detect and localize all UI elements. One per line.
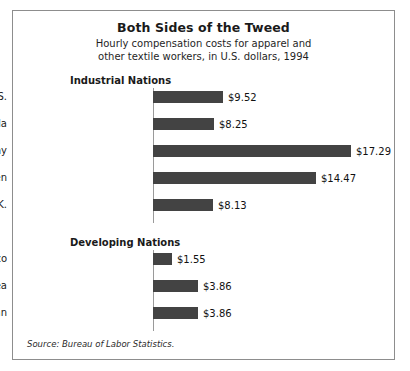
bar-row: Sweden $14.47: [13, 169, 394, 196]
bar: [153, 307, 198, 319]
bar-group: $9.52: [153, 91, 257, 103]
plot-industrial: U.S. $9.52 Canada $8.25 Germany $17.29 S…: [13, 88, 394, 223]
bar-row: Taiwan $3.86: [13, 304, 394, 331]
bar-group: $1.55: [153, 253, 206, 265]
category-label: Canada: [0, 118, 13, 129]
bar-row: U.K. $8.13: [13, 196, 394, 223]
category-label: Mexico: [0, 253, 13, 264]
bar: [153, 199, 213, 211]
bar: [153, 172, 316, 184]
chart-subtitle: Hourly compensation costs for apparel an…: [13, 38, 394, 63]
bar-row: U.S. $9.52: [13, 88, 394, 115]
bar-row: Korea $3.86: [13, 277, 394, 304]
section-heading-developing: Developing Nations: [70, 237, 394, 248]
category-label: U.S.: [0, 91, 13, 102]
bar-row: Germany $17.29: [13, 142, 394, 169]
bar: [153, 91, 223, 103]
value-label: $14.47: [321, 173, 356, 184]
value-label: $3.86: [203, 308, 232, 319]
chart-title: Both Sides of the Tweed: [13, 20, 394, 35]
bar-group: $8.25: [153, 118, 248, 130]
category-label: Germany: [0, 145, 13, 156]
chart-subtitle-line-2: other textile workers, in U.S. dollars, …: [13, 51, 394, 64]
bar-group: $3.86: [153, 280, 232, 292]
category-label: Sweden: [0, 172, 13, 183]
bar: [153, 118, 214, 130]
value-label: $9.52: [228, 92, 257, 103]
bar: [153, 280, 198, 292]
bar-group: $3.86: [153, 307, 232, 319]
bar-group: $14.47: [153, 172, 356, 184]
category-label: Korea: [0, 280, 13, 291]
category-label: U.K.: [0, 199, 13, 210]
section-heading-industrial: Industrial Nations: [70, 75, 394, 86]
value-label: $3.86: [203, 281, 232, 292]
value-label: $17.29: [356, 146, 391, 157]
value-label: $8.25: [219, 119, 248, 130]
bar-group: $17.29: [153, 145, 391, 157]
source-note: Source: Bureau of Labor Statistics.: [27, 339, 174, 349]
value-label: $8.13: [218, 200, 247, 211]
bar-row: Canada $8.25: [13, 115, 394, 142]
category-label: Taiwan: [0, 307, 13, 318]
value-label: $1.55: [177, 254, 206, 265]
bar-row: Mexico $1.55: [13, 250, 394, 277]
bar: [153, 145, 351, 157]
bar-group: $8.13: [153, 199, 247, 211]
chart-subtitle-line-1: Hourly compensation costs for apparel an…: [13, 38, 394, 51]
chart-figure: Both Sides of the Tweed Hourly compensat…: [12, 10, 395, 360]
bar: [153, 253, 172, 265]
plot-developing: Mexico $1.55 Korea $3.86 Taiwan $3.86: [13, 250, 394, 331]
